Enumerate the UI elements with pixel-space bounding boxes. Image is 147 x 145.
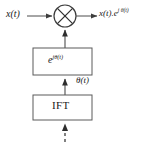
ift-block-label: IFT	[52, 100, 69, 111]
exponential-block-label: ejθ(t)	[48, 54, 63, 65]
label-output-signal: x(t).ej θ(t)	[99, 8, 129, 18]
label-output-exponent: j θ(t)	[118, 7, 129, 13]
exponential-block-exponent: jθ(t)	[52, 53, 63, 60]
label-theta-signal: θ(t)	[76, 76, 89, 85]
diagram-canvas	[0, 0, 147, 145]
label-input-signal: x(t)	[6, 9, 20, 19]
label-output-base: x(t).e	[99, 8, 118, 18]
block-diagram: x(t) x(t).ej θ(t) ejθ(t) θ(t) IFT	[0, 0, 147, 145]
